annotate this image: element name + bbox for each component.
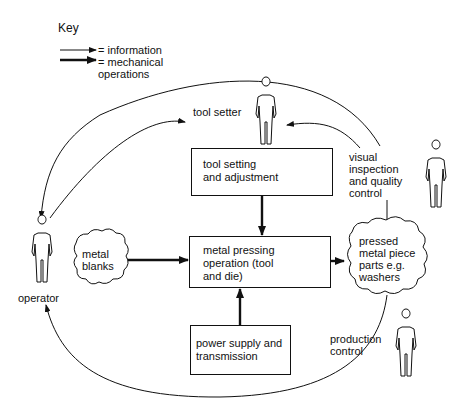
key-information-label: = information [98, 44, 162, 56]
metal-blanks-label: metal blanks [82, 248, 114, 272]
tool-setter-label: tool setter [193, 106, 241, 118]
box-power-supply-label: power supply and transmission [196, 337, 282, 363]
person-tool-setter-icon [256, 77, 276, 144]
box-metal-pressing-label: metal pressing operation (tool and die) [203, 244, 275, 283]
box-metal-pressing: metal pressing operation (tool and die) [189, 236, 331, 288]
box-power-supply: power supply and transmission [190, 325, 291, 375]
box-tool-setting-label: tool setting and adjustment [203, 158, 278, 184]
box-tool-setting: tool setting and adjustment [191, 148, 333, 196]
person-inspection-icon [426, 140, 446, 207]
pressed-parts-label: pressed metal piece parts e.g. washers [359, 235, 415, 283]
arc-inspection-to-toolsetter [287, 123, 360, 148]
arc-operator-to-toolsetter [50, 121, 185, 218]
inspection-label: visual inspection and quality control [349, 151, 402, 199]
person-operator-icon [32, 215, 52, 282]
operator-label: operator [18, 292, 59, 304]
key-mechanical-label: = mechanical operations [98, 56, 163, 80]
person-production-icon [396, 309, 416, 376]
production-label: production control [330, 333, 381, 357]
key-title: Key [58, 22, 79, 34]
